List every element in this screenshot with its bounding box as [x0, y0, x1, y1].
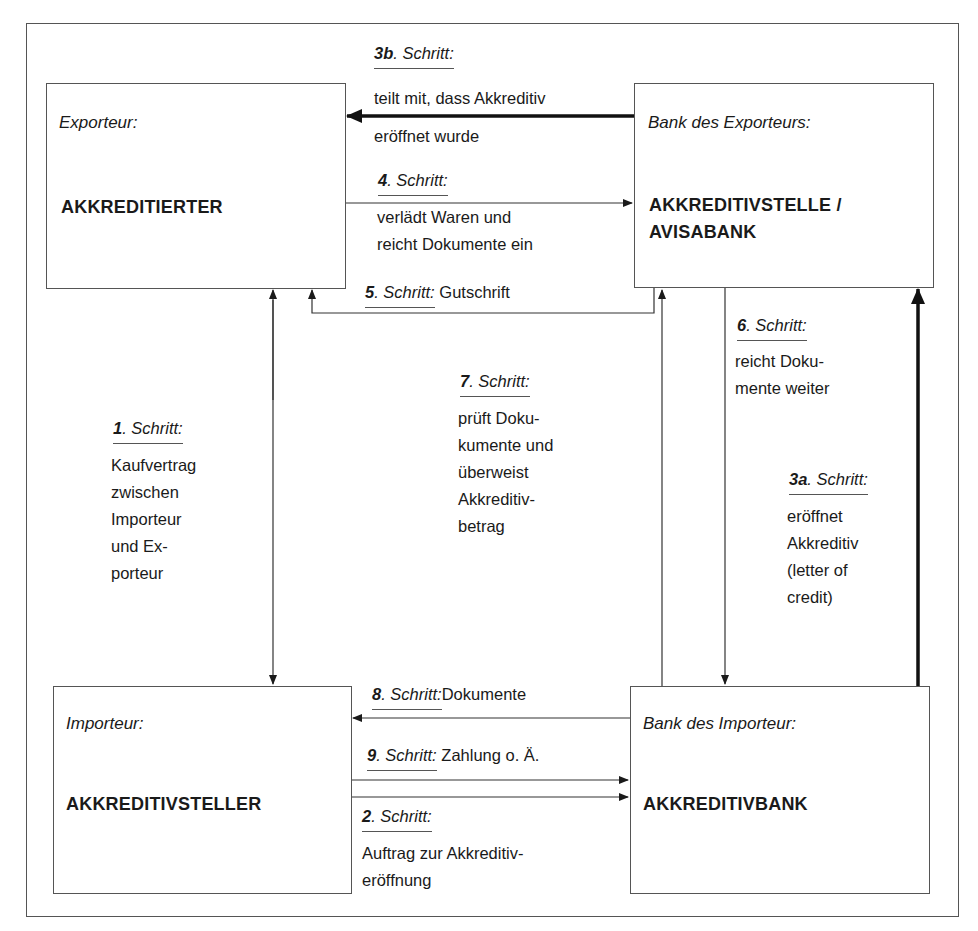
step-8-heading: 8. Schritt: — [372, 681, 442, 710]
step-7-desc: prüft Doku- kumente und überweist Akkred… — [458, 405, 553, 540]
step-3a-heading: 3a. Schritt: — [789, 466, 868, 495]
step-7-heading: 7. Schritt: — [460, 368, 530, 397]
exporter-name: AKKREDITIERTER — [61, 194, 223, 221]
step-1-desc: Kaufvertrag zwischen Importeur und Ex- p… — [111, 452, 196, 587]
importer-bank-name: AKKREDITIVBANK — [643, 791, 808, 818]
step-7: 7. Schritt: — [460, 368, 530, 397]
step-4-desc: verlädt Waren und reicht Dokumente ein — [377, 204, 533, 258]
step-5: 5. Schritt: Gutschrift — [365, 279, 510, 308]
step-6: 6. Schritt: — [737, 312, 807, 341]
step-4: 4. Schritt: — [378, 167, 448, 196]
step-3b-heading: 3b. Schritt: — [374, 40, 454, 69]
step-4-heading: 4. Schritt: — [378, 167, 448, 196]
importer-role: Importeur: — [66, 714, 143, 734]
step-9: 9. Schritt: Zahlung o. Ä. — [367, 742, 539, 771]
step-2: 2. Schritt: — [362, 803, 432, 832]
step-1-heading: 1. Schritt: — [113, 415, 183, 444]
step-3b-desc-line2: eröffnet wurde — [374, 123, 479, 150]
exporter-bank-box: Bank des Exporteurs: AKKREDITIVSTELLE / … — [634, 83, 934, 288]
step-9-heading: 9. Schritt: — [367, 742, 437, 771]
step-8-desc: Dokumente — [442, 685, 526, 703]
exporter-box: Exporteur: AKKREDITIERTER — [46, 83, 346, 289]
exporter-bank-name-line2: AVISABANK — [649, 219, 756, 246]
step-1: 1. Schritt: — [113, 415, 183, 444]
step-3a: 3a. Schritt: — [789, 466, 868, 495]
step-2-heading: 2. Schritt: — [362, 803, 432, 832]
importer-bank-box: Bank des Importeur: AKKREDITIVBANK — [630, 686, 930, 894]
step-3b: 3b. Schritt: — [374, 40, 454, 69]
importer-box: Importeur: AKKREDITIVSTELLER — [53, 686, 352, 894]
step-5-heading: 5. Schritt: — [365, 279, 435, 308]
step-3b-desc-line1: teilt mit, dass Akkreditiv — [374, 85, 545, 112]
step-6-desc: reicht Doku- mente weiter — [735, 348, 829, 402]
step-6-heading: 6. Schritt: — [737, 312, 807, 341]
step-8: 8. Schritt:Dokumente — [372, 681, 526, 710]
step-5-desc: Gutschrift — [439, 283, 510, 301]
importer-name: AKKREDITIVSTELLER — [66, 791, 261, 818]
importer-bank-role: Bank des Importeur: — [643, 714, 796, 734]
step-2-desc: Auftrag zur Akkreditiv- eröffnung — [362, 840, 523, 894]
step-9-desc: Zahlung o. Ä. — [441, 746, 539, 764]
exporter-bank-role: Bank des Exporteurs: — [648, 113, 811, 133]
exporter-bank-name-line1: AKKREDITIVSTELLE / — [649, 192, 842, 219]
exporter-role: Exporteur: — [59, 113, 137, 133]
step-3a-desc: eröffnet Akkreditiv (letter of credit) — [787, 503, 859, 611]
